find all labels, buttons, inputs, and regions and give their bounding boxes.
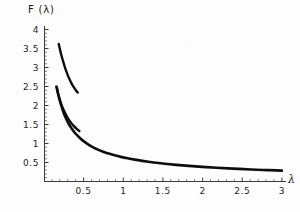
- x-tick-label-4: 2.5: [222, 186, 262, 196]
- y-tick-label-5: 3: [0, 63, 39, 73]
- y-tick-label-0: 0.5: [0, 158, 39, 168]
- x-tick-label-1: 1: [103, 186, 143, 196]
- x-axis-title: λ: [288, 173, 295, 186]
- plot-canvas: [0, 0, 300, 212]
- curve-main-asymptotic-branch: [57, 87, 282, 170]
- y-tick-label-3: 2: [0, 101, 39, 111]
- x-tick-label-0: 0.5: [64, 186, 104, 196]
- curve-upper-branch: [59, 44, 78, 93]
- x-tick-label-5: 3: [262, 186, 300, 196]
- axis-lines: [44, 26, 285, 182]
- chart-figure: F (λ) λ 0.5 1 1.5 2 2.5 3 3.5 4 0.5 1 1.…: [0, 0, 300, 212]
- x-tick-label-2: 1.5: [143, 186, 183, 196]
- y-tick-label-1: 1: [0, 139, 39, 149]
- x-tick-label-3: 2: [183, 186, 223, 196]
- y-tick-label-4: 2.5: [0, 82, 39, 92]
- y-tick-label-2: 1.5: [0, 120, 39, 130]
- y-axis-major-ticks: [45, 30, 49, 163]
- y-tick-label-7: 4: [0, 25, 39, 35]
- data-curves: [56, 44, 282, 171]
- y-axis-title: F (λ): [28, 4, 55, 15]
- x-axis-major-ticks: [84, 178, 282, 182]
- y-tick-label-6: 3.5: [0, 44, 39, 54]
